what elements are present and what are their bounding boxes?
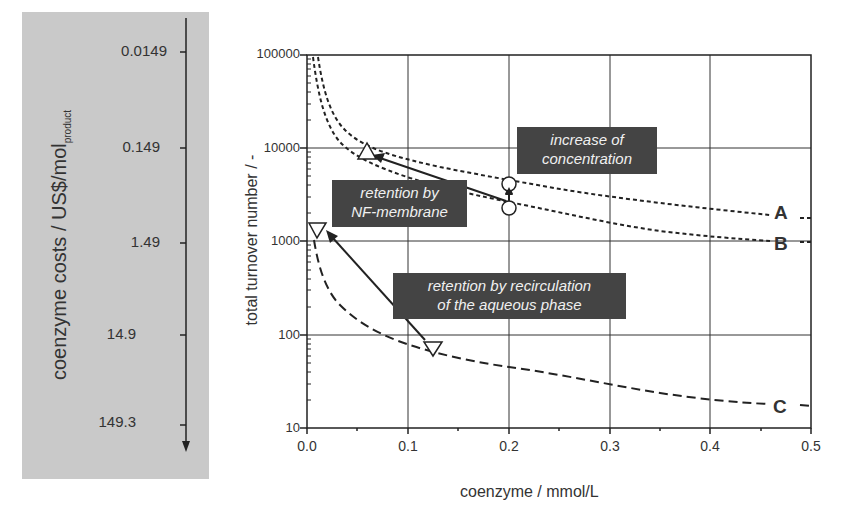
annotation-retention-recirculation: retention by recirculation of the aqueou… [393, 273, 626, 319]
y-tick-label: 10000 [264, 140, 300, 155]
x-axis-title: coenzyme / mmol/L [460, 483, 599, 501]
x-tick-label: 0.3 [590, 438, 630, 454]
annotation-line: retention by [338, 183, 461, 202]
annotation-increase-of-concentration: increase of concentration [517, 127, 657, 174]
y-tick-label: 1000 [271, 233, 300, 248]
cost-axis [180, 18, 186, 445]
annotation-retention-nf-membrane: retention by NF-membrane [332, 180, 467, 227]
y-tick-label: 100 [278, 327, 300, 342]
cost-axis-arrow-icon [182, 441, 190, 452]
x-tick-label: 0.0 [287, 438, 327, 454]
y-axis-title: total turnover number / - [243, 155, 261, 326]
annotation-line: of the aqueous phase [399, 295, 620, 314]
marker-circle [502, 201, 516, 215]
curve-c [314, 240, 811, 406]
annotation-line: concentration [523, 149, 651, 168]
y-tick-label: 10 [286, 420, 300, 435]
curve-label-a: A [774, 202, 788, 224]
annotation-line: retention by recirculation [399, 276, 620, 295]
x-ticks [307, 428, 811, 434]
x-tick-label: 0.2 [489, 438, 529, 454]
x-tick-label: 0.4 [690, 438, 730, 454]
marker-triangle-up [358, 143, 376, 159]
x-tick-label: 0.1 [388, 438, 428, 454]
y-tick-label: 100000 [257, 46, 300, 61]
x-tick-label: 0.5 [791, 438, 831, 454]
curve-label-c: C [773, 396, 787, 418]
y-major-ticks [300, 55, 307, 428]
annotation-line: increase of [523, 130, 651, 149]
marker-triangle-down [309, 223, 326, 238]
curve-label-b: B [774, 233, 788, 255]
annotation-line: NF-membrane [338, 202, 461, 221]
grid [307, 55, 811, 428]
